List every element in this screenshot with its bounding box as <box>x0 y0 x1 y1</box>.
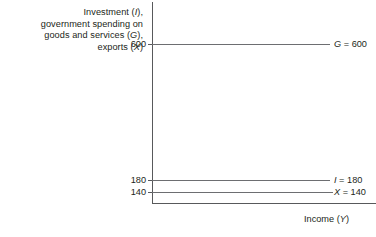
series-line-i <box>152 180 330 181</box>
y-axis-title-line-1-suffix: ), <box>137 7 143 17</box>
y-tick-label-140: 140 <box>106 187 146 197</box>
series-label-x-value: = 140 <box>340 187 366 197</box>
x-axis-title-text: Income ( <box>304 214 340 224</box>
series-label-i: I = 180 <box>334 175 362 185</box>
y-axis-title-line-2: government spending on <box>0 19 143 31</box>
x-axis-title-suffix: ) <box>346 214 349 224</box>
series-line-g <box>152 44 330 45</box>
y-axis-line <box>152 2 153 204</box>
series-line-x <box>152 192 333 193</box>
y-axis-title-line-1: Investment (I), <box>0 7 143 19</box>
y-tick-label-180: 180 <box>106 175 146 185</box>
x-axis-line <box>152 203 376 204</box>
chart-figure: Investment (I), government spending on g… <box>0 0 376 237</box>
series-label-i-value: = 180 <box>337 175 363 185</box>
x-axis-title: Income (Y) <box>304 214 349 224</box>
series-label-x: X = 140 <box>334 187 366 197</box>
y-tick-label-600: 600 <box>106 39 146 49</box>
series-label-g-value: = 600 <box>341 39 367 49</box>
series-label-g: G = 600 <box>334 39 367 49</box>
y-axis-title-line-1-text: Investment ( <box>84 7 135 17</box>
